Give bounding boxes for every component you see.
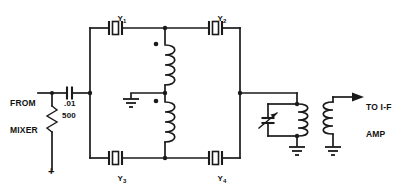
upper-winding-polarity-dot	[154, 42, 159, 47]
upper-winding-coil	[165, 45, 175, 85]
input-resistor-value-label: 500	[62, 112, 76, 120]
crystal-y1-label: Y1	[108, 7, 127, 33]
input-resistor-body	[47, 106, 57, 132]
input-source-label-line2: MIXER	[10, 126, 38, 135]
crystal-y2-label-sub: 2	[223, 18, 227, 24]
lower-winding-coil	[165, 102, 175, 142]
crystal-y3-label: Y3	[108, 167, 127, 184]
circuit-diagram: FROM MIXER .01 500 + Y1 Y2 Y3 Y4 TO I-F …	[0, 0, 403, 184]
supply-polarity-label: +	[48, 166, 55, 178]
output-secondary-coil	[323, 102, 333, 134]
lower-winding-polarity-dot	[154, 99, 159, 104]
crystal-y1-label-sub: 1	[123, 18, 127, 24]
crystal-y4-label: Y4	[208, 167, 227, 184]
crystal-y4-label-sub: 4	[223, 178, 227, 184]
output-destination-label-line1: TO I-F	[366, 103, 392, 112]
input-source-label: FROM MIXER	[10, 81, 38, 152]
left-rail-node	[88, 91, 92, 95]
y4-crystal-body	[213, 152, 219, 165]
output-destination-label-line2: AMP	[366, 130, 392, 139]
input-capacitor-value-label: .01	[64, 100, 76, 108]
crystal-y2-label: Y2	[208, 7, 227, 33]
input-source-label-line1: FROM	[10, 99, 38, 108]
schematic-canvas	[0, 0, 403, 184]
output-arrowhead	[352, 93, 364, 102]
y3-crystal-body	[113, 152, 119, 165]
crystal-y3-label-sub: 3	[123, 178, 127, 184]
center-tap-ground-wire	[131, 93, 165, 98]
output-destination-label: TO I-F AMP	[366, 85, 392, 156]
output-primary-coil	[298, 104, 308, 136]
